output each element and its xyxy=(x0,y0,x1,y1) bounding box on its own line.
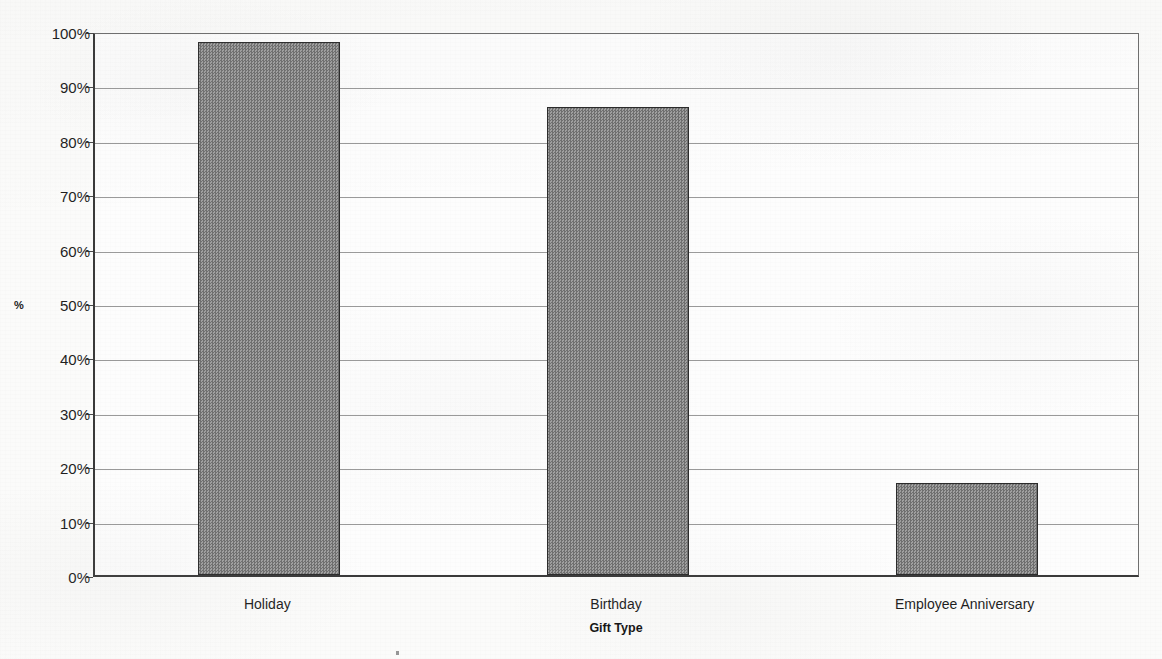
y-axis-tick-label: 0% xyxy=(68,569,90,586)
y-axis-tick-label: 10% xyxy=(60,514,90,531)
y-axis-tick-label: 50% xyxy=(60,297,90,314)
y-axis-tick-label: 30% xyxy=(60,405,90,422)
y-axis-tick-label: 70% xyxy=(60,188,90,205)
y-axis-tick-label: 80% xyxy=(60,133,90,150)
x-axis-tick-label: Holiday xyxy=(244,596,291,612)
x-axis-tick-label: Birthday xyxy=(590,596,641,612)
plot-area xyxy=(93,33,1139,577)
bar xyxy=(198,42,340,575)
chart-page: 100%90%80%70%60%50%40%30%20%10%0% % Holi… xyxy=(0,0,1162,659)
y-axis-tick-label: 40% xyxy=(60,351,90,368)
y-axis-tick-label: 90% xyxy=(60,79,90,96)
y-axis-title: % xyxy=(14,299,24,311)
y-axis-tick-label: 60% xyxy=(60,242,90,259)
y-axis-tick-label: 100% xyxy=(52,25,90,42)
y-axis-tick-label: 20% xyxy=(60,460,90,477)
bar xyxy=(547,107,689,575)
bar xyxy=(896,483,1038,575)
x-axis-tick-label: Employee Anniversary xyxy=(895,596,1034,612)
x-axis-title: Gift Type xyxy=(589,621,642,635)
scan-speck xyxy=(396,651,399,655)
